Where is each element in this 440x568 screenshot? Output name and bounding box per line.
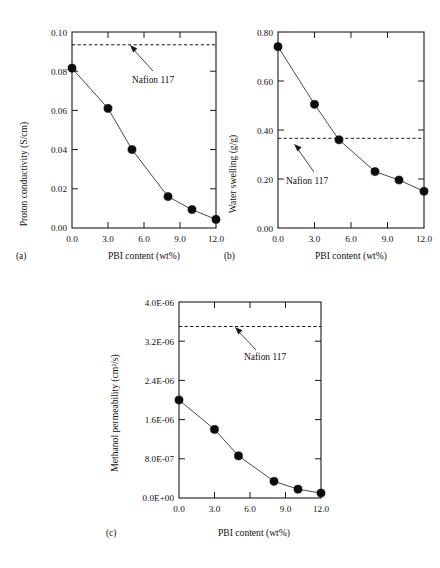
panel-c-xtick-label-2: 6.0 [244, 504, 256, 514]
panel-b-ylabel-group: Water swelling (g/g) [227, 135, 239, 214]
panel-c-xtick-label-4: 12.0 [313, 504, 329, 514]
panel-a-xlabel: PBI content (wt%) [108, 250, 180, 262]
panel-b-data-point [371, 168, 379, 176]
panel-b-frame [278, 32, 424, 228]
panel-b-ylabel: Water swelling (g/g) [227, 135, 239, 214]
panel-b-xtick-label-3: 9.0 [382, 234, 394, 244]
panel-c-ytick-label-0: 0.0E+00 [143, 493, 175, 503]
panel-b-data-point [310, 100, 318, 108]
panel-a-ylabel: Proton conductivity (S/cm) [18, 122, 30, 226]
panel-c-data-point [234, 452, 242, 460]
panel-b-xlabel: PBI content (wt%) [315, 250, 387, 262]
panel-b-nafion-annotation: Nafion 117 [286, 144, 328, 186]
panel-c-xticks [215, 302, 286, 498]
panel-a-data-point [212, 215, 220, 223]
panel-a-series-markers [68, 64, 220, 223]
panel-c-ytick-label-2: 1.6E-06 [145, 415, 175, 425]
panel-c-xlabel: PBI content (wt%) [218, 527, 290, 539]
figure-root: Proton conductivity (S/cm) 0.10 0.08 0.0… [0, 0, 440, 568]
panel-b-ytick-label-4: 0.80 [257, 28, 273, 38]
panel-c-xtick-label-0: 0.0 [173, 504, 185, 514]
panel-b-xtick-label-4: 12.0 [416, 234, 432, 244]
panel-b-plot: Water swelling (g/g) 0.80 0.60 0.40 0.20… [222, 14, 436, 276]
panel-b-caption: (b) [224, 251, 235, 262]
panel-b-annotation-label: Nafion 117 [286, 176, 328, 186]
panel-a-nafion-annotation: Nafion 117 [130, 45, 174, 85]
panel-c-annotation-label: Nafion 117 [244, 352, 286, 362]
arrowhead-icon [235, 327, 243, 335]
panel-c-series-line [179, 400, 321, 493]
arrowhead-icon [294, 144, 302, 151]
panel-a-xtick-label-3: 9.0 [174, 234, 186, 244]
panel-a-xtick-labels: 0.0 3.0 6.0 9.0 12.0 [66, 234, 224, 244]
panel-b-ytick-label-1: 0.20 [257, 175, 273, 185]
panel-c-caption: (c) [106, 528, 116, 539]
panel-b-ytick-label-2: 0.40 [257, 126, 273, 136]
panel-c-data-point [270, 477, 278, 485]
panel-a-ytick-label-1: 0.02 [51, 184, 67, 194]
panel-a-data-point [164, 193, 172, 201]
panel-a-data-point [128, 146, 136, 154]
panel-c-ylabel-group: Methanol permeability (cm²/s) [109, 354, 121, 471]
panel-b-xticks [315, 32, 388, 228]
panel-b-ytick-labels: 0.80 0.60 0.40 0.20 0.00 [257, 28, 273, 234]
panel-b-xtick-label-1: 3.0 [309, 234, 321, 244]
panel-c-ytick-label-5: 4.0E-06 [145, 298, 175, 308]
panel-c-ytick-labels: 4.0E-06 3.2E-06 2.4E-06 1.6E-06 8.0E-07 … [143, 298, 175, 503]
panel-b-data-point [420, 187, 428, 195]
panel-c-xtick-label-3: 9.0 [280, 504, 292, 514]
arrowhead-icon [130, 45, 137, 52]
panel-c-nafion-annotation: Nafion 117 [235, 327, 286, 362]
panel-a-yticks [72, 71, 216, 189]
panel-a-series-line [72, 68, 216, 219]
panel-c-ytick-label-4: 3.2E-06 [145, 337, 175, 347]
panel-a-annotation-label: Nafion 117 [132, 75, 174, 85]
panel-a-caption: (a) [16, 251, 26, 262]
panel-b-xtick-labels: 0.0 3.0 6.0 9.0 12.0 [272, 234, 432, 244]
panel-c-ytick-label-3: 2.4E-06 [145, 376, 175, 386]
panel-a-ytick-label-2: 0.04 [51, 145, 67, 155]
panel-a-xtick-label-1: 3.0 [102, 234, 114, 244]
panel-b-xtick-label-2: 6.0 [345, 234, 357, 244]
panel-a-ytick-label-0: 0.00 [51, 223, 67, 233]
panel-c-ytick-label-1: 8.0E-07 [145, 454, 175, 464]
panel-b-series-line [278, 47, 424, 192]
panel-c-ylabel: Methanol permeability (cm²/s) [109, 354, 121, 471]
panel-b: Water swelling (g/g) 0.80 0.60 0.40 0.20… [222, 14, 436, 276]
panel-c-data-point [175, 396, 183, 404]
panel-a-data-point [188, 206, 196, 214]
panel-a-data-point [104, 104, 112, 112]
panel-c-xtick-label-1: 3.0 [209, 504, 221, 514]
panel-c-plot: Methanol permeability (cm²/s) 4.0E-06 3.… [104, 288, 354, 556]
panel-b-yticks [278, 81, 424, 179]
panel-c-data-point [294, 485, 302, 493]
panel-b-ytick-label-0: 0.00 [257, 224, 273, 234]
panel-a-xtick-label-2: 6.0 [138, 234, 150, 244]
panel-a-ytick-label-3: 0.06 [51, 106, 67, 116]
panel-c-frame [179, 302, 321, 498]
panel-c-data-point [210, 425, 218, 433]
panel-a-ylabel-group: Proton conductivity (S/cm) [18, 122, 30, 226]
panel-c: Methanol permeability (cm²/s) 4.0E-06 3.… [104, 288, 354, 556]
panel-c-series-markers [175, 396, 325, 497]
panel-b-data-point [395, 176, 403, 184]
panel-a-plot: Proton conductivity (S/cm) 0.10 0.08 0.0… [14, 14, 224, 276]
panel-c-data-point [317, 489, 325, 497]
panel-b-series-markers [274, 43, 428, 196]
panel-c-xtick-labels: 0.0 3.0 6.0 9.0 12.0 [173, 504, 329, 514]
panel-a-ytick-label-5: 0.10 [51, 28, 67, 38]
panel-b-xtick-label-0: 0.0 [272, 234, 284, 244]
panel-b-data-point [274, 43, 282, 51]
panel-a-data-point [68, 64, 76, 72]
panel-b-ytick-label-3: 0.60 [257, 77, 273, 87]
panel-a-ytick-labels: 0.10 0.08 0.06 0.04 0.02 0.00 [51, 28, 67, 233]
panel-a-ytick-label-4: 0.08 [51, 67, 67, 77]
panel-a-xtick-label-0: 0.0 [66, 234, 78, 244]
panel-b-data-point [335, 136, 343, 144]
panel-a: Proton conductivity (S/cm) 0.10 0.08 0.0… [14, 14, 224, 276]
